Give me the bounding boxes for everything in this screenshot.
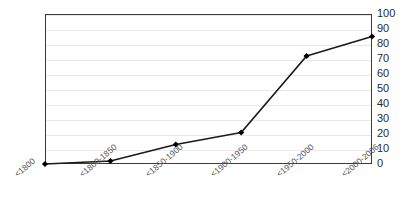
plot-area (45, 14, 372, 164)
gridline (46, 75, 371, 76)
gridline (46, 45, 371, 46)
gridline (46, 135, 371, 136)
gridline (46, 120, 371, 121)
x-axis-tick-label: <1800 (13, 157, 37, 179)
gridline (46, 30, 371, 31)
gridline (46, 150, 371, 151)
y-axis-tick-label: 30 (377, 113, 389, 124)
y-axis-tick-label: 60 (377, 68, 389, 79)
y-axis-tick-label: 40 (377, 98, 389, 109)
y-axis-tick-label: 50 (377, 83, 389, 94)
gridline (46, 105, 371, 106)
y-axis-tick-label: 100 (377, 8, 395, 19)
gridline (46, 15, 371, 16)
y-axis-tick-label: 90 (377, 23, 389, 34)
gridline (46, 90, 371, 91)
y-axis-tick-label: 80 (377, 38, 389, 49)
gridline (46, 60, 371, 61)
y-axis-tick-label: 70 (377, 53, 389, 64)
line-chart: 0102030405060708090100 <1800<1800-1850<1… (0, 0, 410, 219)
y-axis-tick-label: 0 (377, 158, 383, 169)
y-axis-tick-label: 20 (377, 128, 389, 139)
